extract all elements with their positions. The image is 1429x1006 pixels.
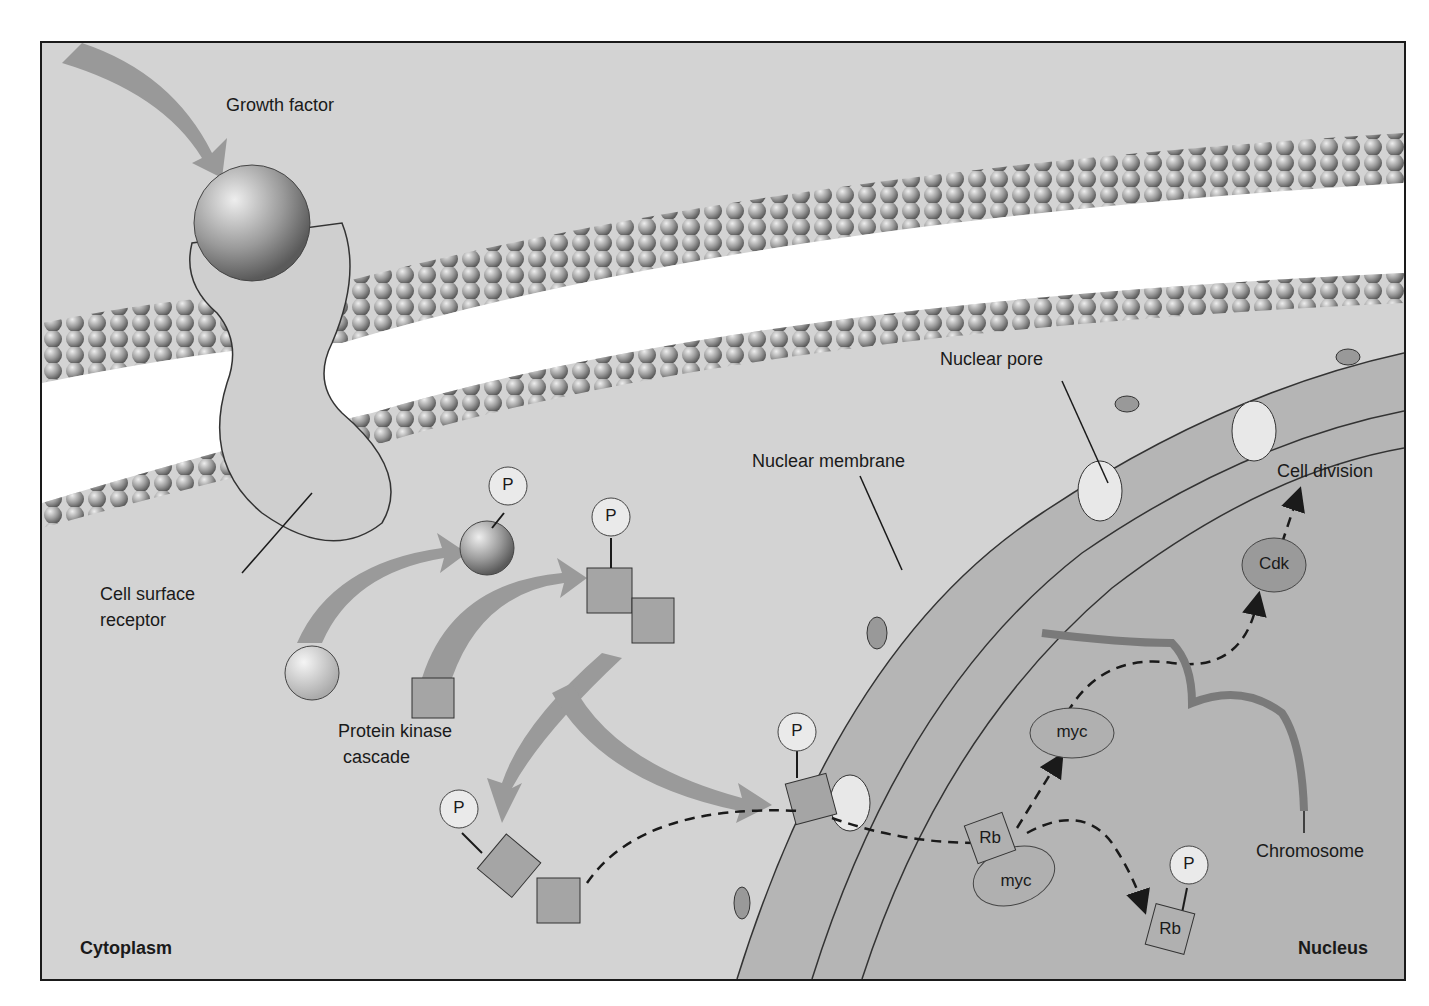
label-chromosome: Chromosome bbox=[1256, 840, 1364, 862]
label-nucleus: Nucleus bbox=[1298, 937, 1368, 959]
rb-bound-label: Rb bbox=[972, 828, 1008, 848]
diagram-frame: Growth factor Cell surface receptor Prot… bbox=[40, 41, 1406, 981]
label-growth-factor: Growth factor bbox=[226, 94, 334, 116]
cascade-arrows bbox=[297, 533, 772, 823]
label-receptor: receptor bbox=[100, 609, 166, 631]
myc-label: myc bbox=[1046, 722, 1098, 742]
nucleus bbox=[737, 353, 1404, 979]
label-protein-kinase: Protein kinase bbox=[338, 720, 452, 742]
diagram-canvas bbox=[42, 43, 1404, 979]
growth-factor-ball bbox=[194, 165, 310, 281]
label-nuclear-membrane: Nuclear membrane bbox=[752, 450, 905, 472]
cdk-label: Cdk bbox=[1248, 554, 1300, 574]
label-cytoplasm: Cytoplasm bbox=[80, 937, 172, 959]
growth-factor-arrow bbox=[62, 43, 227, 178]
phosphate-label: P bbox=[445, 798, 473, 818]
myc-bound-label: myc bbox=[990, 871, 1042, 891]
label-cascade: cascade bbox=[343, 746, 410, 768]
rb-phosphorylated-label: Rb bbox=[1152, 919, 1188, 939]
label-cell-division: Cell division bbox=[1277, 460, 1373, 482]
phosphate-label: P bbox=[1175, 854, 1203, 874]
label-cell-surface: Cell surface bbox=[100, 583, 195, 605]
phosphate-label: P bbox=[597, 506, 625, 526]
phosphate-label: P bbox=[783, 721, 811, 741]
label-nuclear-pore: Nuclear pore bbox=[940, 348, 1043, 370]
phosphate-label: P bbox=[494, 475, 522, 495]
